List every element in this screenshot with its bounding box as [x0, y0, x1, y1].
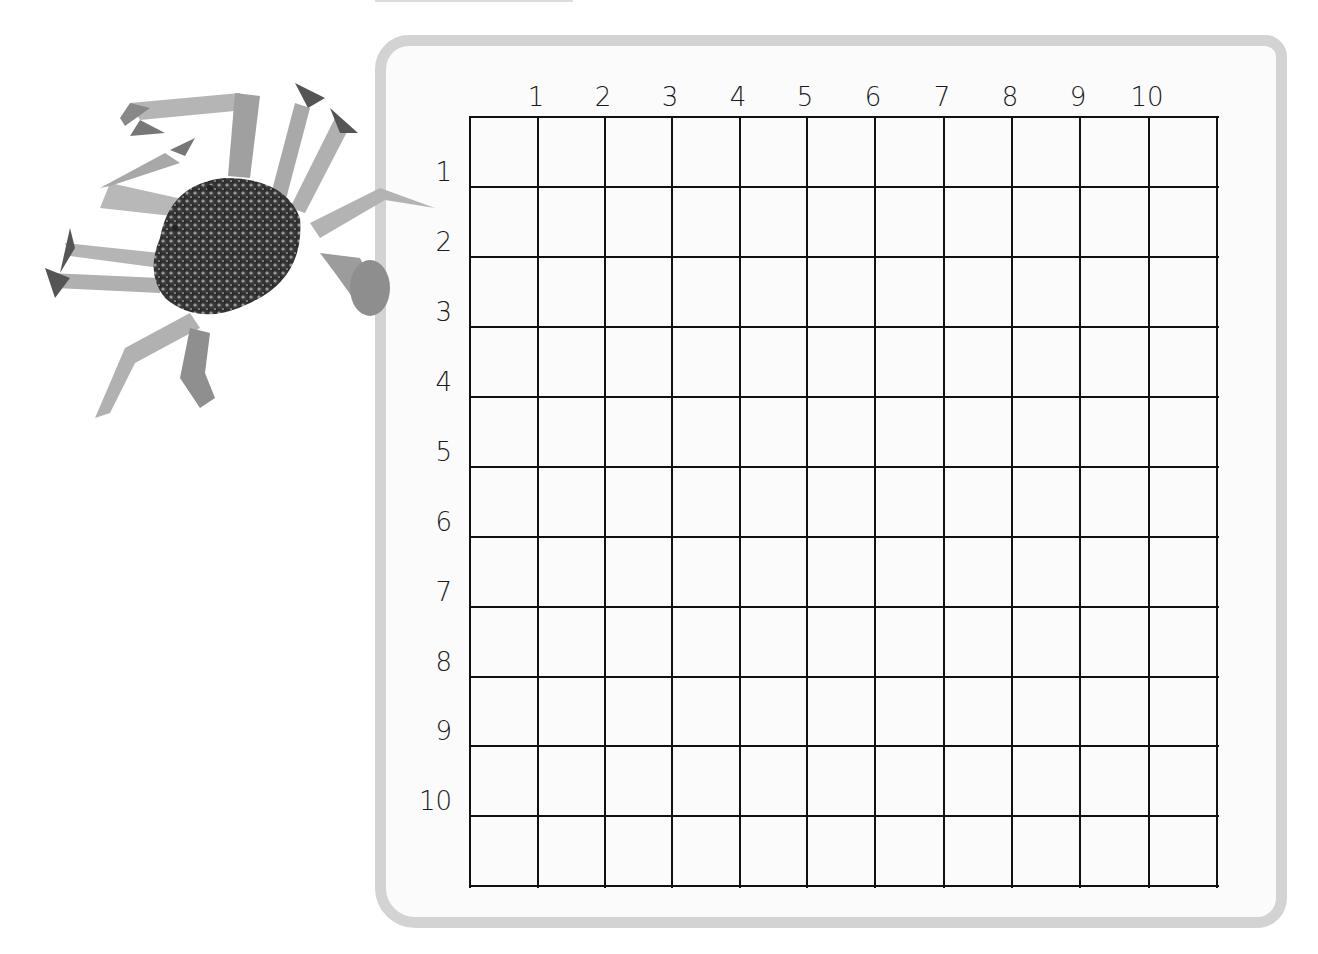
row-label: 6 — [392, 509, 452, 535]
column-label: 3 — [662, 84, 679, 110]
grid-horizontal-line — [469, 326, 1219, 328]
column-label: 9 — [1070, 84, 1087, 110]
row-label: 1 — [392, 159, 452, 185]
grid-vertical-line — [1079, 117, 1081, 888]
worksheet-frame — [375, 35, 1287, 928]
column-label: 5 — [797, 84, 814, 110]
grid-horizontal-line — [469, 116, 1219, 118]
grid-vertical-line — [943, 117, 945, 888]
grid-vertical-line — [806, 117, 808, 888]
column-label: 4 — [730, 84, 747, 110]
row-label: 2 — [392, 229, 452, 255]
grid-horizontal-line — [469, 256, 1219, 258]
grid-vertical-line — [671, 117, 673, 888]
grid-vertical-line — [469, 117, 471, 888]
grid-vertical-line — [604, 117, 606, 888]
crab-illustration — [40, 78, 440, 428]
grid-vertical-line — [1216, 117, 1218, 888]
grid-horizontal-line — [469, 815, 1219, 817]
grid-horizontal-line — [469, 745, 1219, 747]
row-label: 4 — [392, 369, 452, 395]
grid-horizontal-line — [469, 186, 1219, 188]
row-label: 5 — [392, 439, 452, 465]
column-label: 6 — [865, 84, 882, 110]
grid-horizontal-line — [469, 885, 1219, 887]
column-label: 7 — [934, 84, 951, 110]
grid-horizontal-line — [469, 606, 1219, 608]
column-label: 10 — [1130, 84, 1163, 110]
row-label: 9 — [392, 718, 452, 744]
grid-vertical-line — [1148, 117, 1150, 888]
grid-horizontal-line — [469, 536, 1219, 538]
top-divider — [375, 0, 573, 2]
row-label: 8 — [392, 649, 452, 675]
grid-vertical-line — [537, 117, 539, 888]
grid-vertical-line — [874, 117, 876, 888]
grid-vertical-line — [739, 117, 741, 888]
row-label: 3 — [392, 299, 452, 325]
column-label: 8 — [1002, 84, 1019, 110]
grid-horizontal-line — [469, 466, 1219, 468]
grid-vertical-line — [1011, 117, 1013, 888]
grid-horizontal-line — [469, 676, 1219, 678]
column-label: 2 — [595, 84, 612, 110]
column-label: 1 — [528, 84, 545, 110]
row-label: 10 — [392, 788, 452, 814]
grid-horizontal-line — [469, 396, 1219, 398]
row-label: 7 — [392, 579, 452, 605]
